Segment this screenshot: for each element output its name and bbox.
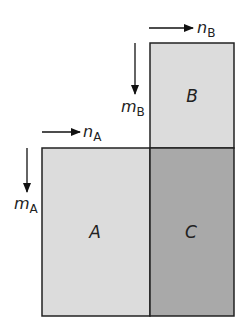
block-c: C [150, 148, 234, 316]
na-sub: A [93, 130, 102, 144]
na-main: n [83, 122, 93, 141]
svg-text:mB: mB [121, 97, 145, 119]
nb-main: n [197, 18, 207, 37]
block-a-label: A [88, 222, 101, 242]
block-c-label: C [185, 222, 197, 242]
dimension-na: nA [42, 122, 102, 144]
dimension-mb: mB [121, 43, 145, 119]
nb-sub: B [207, 26, 215, 40]
svg-text:nA: nA [83, 122, 102, 144]
block-a: A [42, 148, 150, 316]
matrix-multiplication-diagram: B A C nB mB nA mA [0, 0, 243, 333]
mb-sub: B [137, 105, 145, 119]
ma-sub: A [30, 202, 39, 216]
mb-main: m [121, 97, 137, 116]
dimension-nb: nB [149, 18, 215, 40]
block-b-label: B [186, 86, 198, 106]
block-b: B [150, 43, 234, 148]
dimension-ma: mA [14, 148, 39, 216]
ma-main: m [14, 194, 30, 213]
svg-text:nB: nB [197, 18, 215, 40]
svg-text:mA: mA [14, 194, 39, 216]
